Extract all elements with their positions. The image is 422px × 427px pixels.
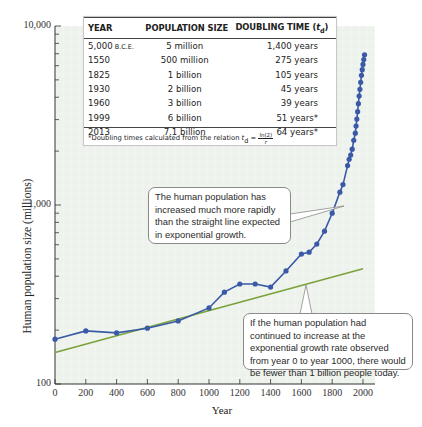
callout-exponential-projection: If the human population had continued to… xyxy=(243,313,413,370)
data-point xyxy=(314,241,319,246)
header-year: YEAR xyxy=(84,18,138,39)
table-row: 19603 billion39 years xyxy=(84,96,336,110)
x-tick-label: 1000 xyxy=(192,387,226,398)
data-point xyxy=(176,318,181,323)
cell-population: 6 billion xyxy=(138,111,232,125)
data-point xyxy=(357,93,362,98)
cell-doubling-time: 45 years xyxy=(231,82,336,96)
data-point xyxy=(353,123,358,128)
data-point xyxy=(253,281,258,286)
data-point xyxy=(361,57,366,62)
data-point xyxy=(351,138,356,143)
table-row: 18251 billion105 years xyxy=(84,67,336,81)
callout-rapid-growth: The human population has increased much … xyxy=(148,187,291,244)
table-row: 19302 billion45 years xyxy=(84,82,336,96)
data-point xyxy=(355,109,360,114)
cell-year: 1825 xyxy=(84,67,138,81)
header-doubling-time: DOUBLING TIME (td) xyxy=(231,18,336,39)
x-tick-label: 600 xyxy=(130,387,164,398)
x-tick-label: 1200 xyxy=(223,387,257,398)
x-tick-label: 200 xyxy=(69,387,103,398)
cell-doubling-time: 51 years* xyxy=(231,111,336,125)
header-population: POPULATION SIZE xyxy=(138,18,232,39)
data-point xyxy=(353,131,358,136)
data-point xyxy=(348,153,353,158)
data-point xyxy=(206,305,211,310)
table-footnote: *Doubling times calculated from the rela… xyxy=(84,127,336,149)
x-tick-label: 1400 xyxy=(254,387,288,398)
x-tick-label: 800 xyxy=(161,387,195,398)
data-point xyxy=(330,211,335,216)
data-point xyxy=(222,290,227,295)
data-point xyxy=(268,284,273,289)
cell-year: 1550 xyxy=(84,53,138,67)
cell-year: 1960 xyxy=(84,96,138,110)
data-point xyxy=(237,281,242,286)
cell-doubling-time: 275 years xyxy=(231,53,336,67)
y-tick-label: 10,000 xyxy=(6,19,51,30)
cell-year: 1999 xyxy=(84,111,138,125)
table-row: 19996 billion51 years* xyxy=(84,111,336,125)
x-tick-label: 0 xyxy=(38,387,72,398)
data-point xyxy=(83,328,88,333)
cell-doubling-time: 39 years xyxy=(231,96,336,110)
cell-population: 2 billion xyxy=(138,82,232,96)
data-point xyxy=(322,229,327,234)
table-row: 5,000 B.C.E.5 million1,400 years xyxy=(84,38,336,53)
data-point xyxy=(360,67,365,72)
x-tick-label: 400 xyxy=(100,387,134,398)
cell-population: 1 billion xyxy=(138,67,232,81)
table-row: 1550500 million275 years xyxy=(84,53,336,67)
data-point xyxy=(345,163,350,168)
data-point xyxy=(337,190,342,195)
y-axis-title: Human population size (millions) xyxy=(21,146,33,366)
x-axis-title: Year xyxy=(192,404,252,416)
cell-population: 500 million xyxy=(138,53,232,67)
doubling-time-table: YEAR POPULATION SIZE DOUBLING TIME (td) … xyxy=(83,16,337,146)
data-point xyxy=(340,182,345,187)
cell-population: 3 billion xyxy=(138,96,232,110)
data-point xyxy=(350,147,355,152)
cell-year: 5,000 B.C.E. xyxy=(84,38,138,53)
data-point xyxy=(357,87,362,92)
cell-doubling-time: 105 years xyxy=(231,67,336,81)
data-point xyxy=(358,80,363,85)
data-point xyxy=(307,250,312,255)
data-point xyxy=(52,337,57,342)
data-point xyxy=(362,52,367,57)
x-tick-label: 2000 xyxy=(346,387,380,398)
cell-doubling-time: 1,400 years xyxy=(231,38,336,53)
data-point xyxy=(354,116,359,121)
data-point xyxy=(283,268,288,273)
data-point xyxy=(360,62,365,67)
data-point xyxy=(359,73,364,78)
data-point xyxy=(299,251,304,256)
ln2-over-r-fraction: ln(2)r xyxy=(258,132,273,145)
data-point xyxy=(114,330,119,335)
data-point xyxy=(145,326,150,331)
cell-population: 5 million xyxy=(138,38,232,53)
x-tick-label: 1800 xyxy=(315,387,349,398)
cell-year: 1930 xyxy=(84,82,138,96)
x-tick-label: 1600 xyxy=(284,387,318,398)
data-point xyxy=(356,101,361,106)
